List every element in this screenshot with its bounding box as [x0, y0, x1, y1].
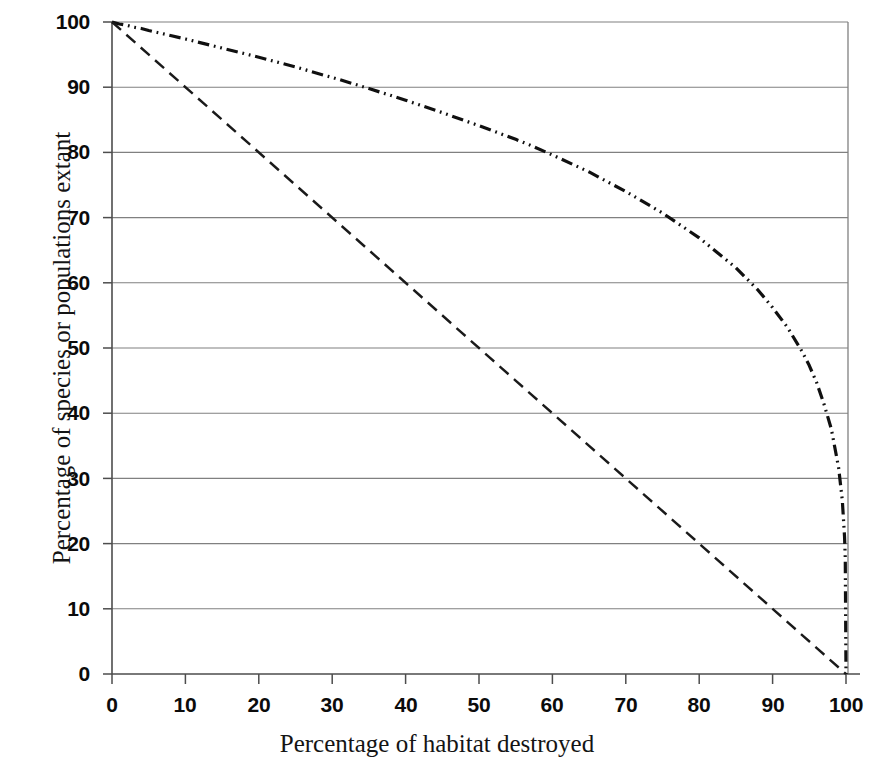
plot-area — [0, 0, 874, 777]
x-tick-label-70: 70 — [591, 694, 661, 715]
y-axis-title: Percentage of species or populations ext… — [48, 18, 76, 678]
x-tick-label-100: 100 — [811, 694, 874, 715]
x-tick-label-90: 90 — [738, 694, 808, 715]
x-tick-label-40: 40 — [371, 694, 441, 715]
x-axis-ticks — [112, 674, 846, 684]
x-tick-label-0: 0 — [77, 694, 147, 715]
x-axis-title: Percentage of habitat destroyed — [0, 730, 874, 758]
x-tick-label-50: 50 — [444, 694, 514, 715]
y-axis-ticks — [103, 22, 112, 674]
x-tick-label-60: 60 — [517, 694, 587, 715]
chart-figure: 100 90 80 70 60 50 40 30 20 10 0 0 10 20… — [0, 0, 874, 777]
x-tick-label-30: 30 — [297, 694, 367, 715]
x-tick-label-80: 80 — [664, 694, 734, 715]
x-tick-label-20: 20 — [224, 694, 294, 715]
x-tick-label-10: 10 — [150, 694, 220, 715]
